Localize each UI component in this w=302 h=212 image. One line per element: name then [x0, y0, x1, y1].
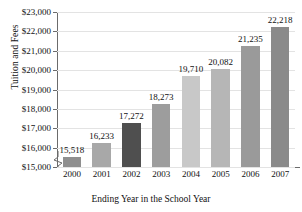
x-tick-label: 2000: [63, 170, 81, 179]
bar-value-label: 19,710: [178, 65, 203, 74]
bar-value-label: 18,273: [149, 93, 174, 102]
bar: 15,518: [63, 157, 81, 167]
y-tick-mark: [53, 167, 57, 168]
bar: 22,218: [271, 27, 289, 167]
y-tick-label: $20,000: [22, 66, 51, 75]
bar: 16,233: [92, 143, 110, 167]
y-tick-label: $19,000: [22, 85, 51, 94]
x-tick-label: 2006: [241, 170, 259, 179]
plot-area: $15,000$16,000$17,000$18,000$19,000$20,0…: [57, 12, 295, 167]
bar-value-label: 22,218: [268, 16, 293, 25]
bar: 18,273: [152, 104, 170, 167]
bar: 21,235: [241, 46, 259, 167]
gridline: [57, 167, 295, 168]
bar-value-label: 16,233: [89, 132, 114, 141]
y-tick-label: $15,000: [22, 163, 51, 172]
y-tick-label: $16,000: [22, 143, 51, 152]
x-tick-label: 2007: [271, 170, 289, 179]
bar-value-label: 20,082: [208, 58, 233, 67]
x-tick-label: 2002: [122, 170, 140, 179]
y-tick-label: $18,000: [22, 104, 51, 113]
x-tick-label: 2003: [152, 170, 170, 179]
y-axis-title: Tuition and Fees: [10, 0, 20, 117]
y-tick-label: $21,000: [22, 46, 51, 55]
x-tick-label: 2001: [93, 170, 111, 179]
bar-value-label: 21,235: [238, 35, 263, 44]
bar-value-label: 15,518: [59, 146, 84, 155]
bar: 19,710: [182, 76, 200, 167]
x-tick-label: 2004: [182, 170, 200, 179]
y-tick-label: $22,000: [22, 27, 51, 36]
y-tick-label: $23,000: [22, 8, 51, 17]
bar: 17,272: [122, 123, 140, 167]
x-tick-label: 2005: [212, 170, 230, 179]
bar-chart: Tuition and Fees $15,000$16,000$17,000$1…: [0, 0, 302, 212]
bar-series: 15,51816,23317,27218,27319,71020,08221,2…: [57, 12, 295, 167]
bar: 20,082: [211, 69, 229, 167]
x-axis-title: Ending Year in the School Year: [0, 194, 302, 204]
bar-value-label: 17,272: [119, 112, 144, 121]
y-tick-label: $17,000: [22, 124, 51, 133]
